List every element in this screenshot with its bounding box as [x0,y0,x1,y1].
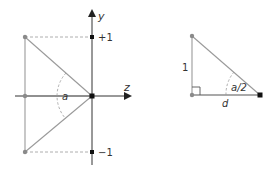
left-figure: y z +1 −1 a [15,10,130,165]
base-label-d: d [222,98,229,109]
right-triangle-hypotenuse [192,36,260,95]
right-point-corner [190,93,194,97]
tick-label-plus-one: +1 [98,32,113,43]
tick-minus-one [90,150,94,154]
point-top-left [23,35,27,39]
tick-plus-one [90,35,94,39]
y-axis-label: y [97,10,105,23]
angle-label-a: a [62,91,68,102]
tick-label-minus-one: −1 [98,147,113,158]
side-label-1: 1 [182,62,188,73]
right-point-top [190,34,194,38]
point-origin [90,94,95,99]
diagram: y z +1 −1 a 1 d a/2 [0,0,276,173]
upper-hypotenuse [25,37,92,96]
angle-label-half-a: a/2 [231,82,247,93]
point-bottom-left [23,150,27,154]
point-mid-left [23,94,27,98]
right-figure: 1 d a/2 [182,34,263,109]
right-point-end [258,93,263,98]
z-axis-label: z [123,81,130,94]
